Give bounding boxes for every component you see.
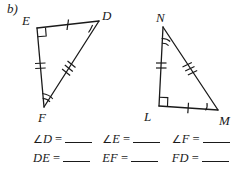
- equals-sign: =: [123, 132, 130, 147]
- answer-term-angle-e: E: [112, 132, 120, 147]
- answer-blank-ef[interactable]: [131, 150, 158, 162]
- answer-blank-angle-d[interactable]: [65, 131, 92, 143]
- answer-length-fd: FD =: [170, 150, 241, 166]
- answer-blank-angle-e[interactable]: [133, 131, 160, 143]
- triangle-edf: E D F: [21, 8, 112, 125]
- vertex-label-e: E: [21, 13, 30, 28]
- answer-blank-fd[interactable]: [202, 150, 229, 162]
- answer-length-de: DE =: [0, 150, 102, 166]
- right-angle-square-e: [38, 28, 47, 37]
- equals-sign: =: [121, 151, 128, 166]
- answer-term-angle-d: D: [43, 132, 52, 147]
- answer-term-angle-f: F: [182, 132, 190, 147]
- equals-sign: =: [192, 132, 199, 147]
- answer-blank-angle-f[interactable]: [203, 131, 230, 143]
- vertex-label-l: L: [143, 109, 151, 124]
- vertex-label-f: F: [37, 110, 47, 125]
- equals-sign: =: [192, 151, 199, 166]
- tick-mark-ed-1: [67, 20, 69, 31]
- vertex-label-n: N: [155, 10, 166, 25]
- angle-symbol-icon: ∠: [33, 133, 43, 146]
- angle-answer-row: ∠ D = ∠ E = ∠ F =: [0, 131, 241, 150]
- answer-term-fd: FD: [172, 151, 189, 166]
- answer-term-ef: EF: [102, 151, 118, 166]
- equals-sign: =: [55, 132, 62, 147]
- vertex-label-d: D: [101, 8, 112, 23]
- tick-mark-lm-1: [188, 103, 189, 113]
- angle-symbol-icon: ∠: [172, 133, 182, 146]
- tick-marks-nm: [183, 63, 198, 76]
- side-ef: [37, 28, 44, 107]
- length-answer-row: DE = EF = FD =: [0, 150, 241, 169]
- answer-blank-de[interactable]: [63, 150, 90, 162]
- answer-blanks: ∠ D = ∠ E = ∠ F = DE =: [0, 131, 241, 169]
- equals-sign: =: [53, 151, 60, 166]
- answer-angle-f: ∠ F =: [170, 131, 241, 147]
- answer-term-de: DE: [33, 151, 50, 166]
- worksheet-problem-b: b): [0, 0, 241, 172]
- tick-marks-df: [62, 61, 75, 76]
- right-angle-square-l: [159, 97, 168, 106]
- answer-angle-d: ∠ D =: [0, 131, 102, 147]
- vertex-label-m: M: [218, 113, 231, 128]
- answer-length-ef: EF =: [102, 150, 170, 166]
- angle-symbol-icon: ∠: [102, 133, 112, 146]
- triangle-nlm: N L M: [143, 10, 231, 128]
- answer-angle-e: ∠ E =: [102, 131, 170, 147]
